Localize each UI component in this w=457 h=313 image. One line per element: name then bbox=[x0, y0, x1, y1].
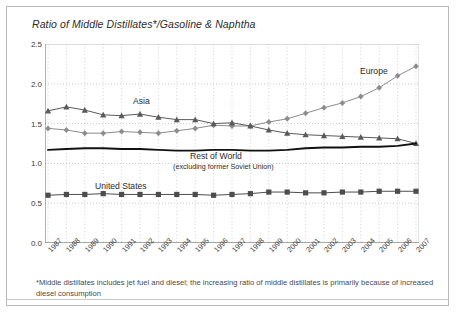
series-label-europe: Europe bbox=[360, 66, 388, 76]
data-point-square bbox=[303, 190, 308, 195]
data-point-square bbox=[137, 192, 142, 197]
data-point-diamond bbox=[303, 110, 309, 116]
series-label-united-states: United States bbox=[95, 181, 147, 191]
footnote-divider bbox=[7, 299, 448, 300]
data-point-square bbox=[64, 192, 69, 197]
chart-footnote: *Middle distillates includes jet fuel an… bbox=[36, 277, 436, 299]
chart-page: Ratio of Middle Distillates*/Gasoline & … bbox=[0, 0, 457, 313]
data-point-diamond bbox=[284, 116, 290, 122]
y-axis-labels: 0.00.51.01.52.02.5 bbox=[18, 44, 42, 243]
data-point-diamond bbox=[395, 73, 401, 79]
y-tick-label: 2.5 bbox=[20, 40, 42, 49]
data-point-square bbox=[321, 190, 326, 195]
chart-title: Ratio of Middle Distillates*/Gasoline & … bbox=[32, 18, 256, 30]
y-tick-label: 0.0 bbox=[20, 239, 42, 248]
data-point-diamond bbox=[82, 130, 88, 136]
y-tick-label: 1.0 bbox=[20, 159, 42, 168]
data-point-square bbox=[101, 191, 106, 196]
data-point-diamond bbox=[340, 100, 346, 106]
data-point-diamond bbox=[45, 125, 51, 131]
data-point-square bbox=[156, 192, 161, 197]
y-tick-label: 0.5 bbox=[20, 199, 42, 208]
data-point-diamond bbox=[321, 105, 327, 111]
data-point-square bbox=[193, 192, 198, 197]
data-point-diamond bbox=[137, 129, 143, 135]
data-point-diamond bbox=[413, 63, 419, 69]
data-point-square bbox=[377, 189, 382, 194]
data-point-diamond bbox=[192, 125, 198, 131]
data-point-diamond bbox=[156, 130, 162, 136]
data-point-diamond bbox=[119, 129, 125, 135]
data-point-square bbox=[340, 189, 345, 194]
data-point-square bbox=[211, 193, 216, 198]
data-point-square bbox=[229, 192, 234, 197]
series-label-asia: Asia bbox=[133, 96, 150, 106]
data-point-diamond bbox=[358, 94, 364, 100]
y-tick-label: 1.5 bbox=[20, 119, 42, 128]
data-point-square bbox=[45, 193, 50, 198]
series-sublabel-rest-of-world: (excluding former Soviet Union) bbox=[173, 162, 274, 171]
data-point-diamond bbox=[64, 127, 70, 133]
data-point-square bbox=[174, 192, 179, 197]
data-point-square bbox=[119, 192, 124, 197]
data-point-diamond bbox=[266, 119, 272, 125]
y-tick-label: 2.0 bbox=[20, 79, 42, 88]
data-point-diamond bbox=[174, 128, 180, 134]
x-axis-labels: 1987198819891990199119921993199419951996… bbox=[45, 245, 419, 279]
data-point-square bbox=[358, 189, 363, 194]
data-point-diamond bbox=[376, 85, 382, 91]
data-point-square bbox=[285, 189, 290, 194]
data-point-square bbox=[248, 191, 253, 196]
data-point-triangle bbox=[63, 104, 69, 110]
data-point-square bbox=[395, 189, 400, 194]
data-point-square bbox=[266, 189, 271, 194]
series-label-rest-of-world: Rest of World bbox=[190, 151, 242, 161]
data-point-diamond bbox=[100, 130, 106, 136]
data-point-square bbox=[413, 189, 418, 194]
data-point-square bbox=[82, 192, 87, 197]
